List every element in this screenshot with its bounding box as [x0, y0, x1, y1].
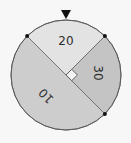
- label-30: 30: [91, 65, 105, 80]
- boundary-dot-upper-left: [25, 34, 29, 38]
- boundary-dot-upper-right: [103, 34, 107, 38]
- pointer-icon: [61, 10, 71, 19]
- label-20: 20: [58, 34, 73, 48]
- boundary-dot-lower-right: [103, 112, 107, 116]
- spinner-diagram: 20 30 10: [0, 0, 131, 143]
